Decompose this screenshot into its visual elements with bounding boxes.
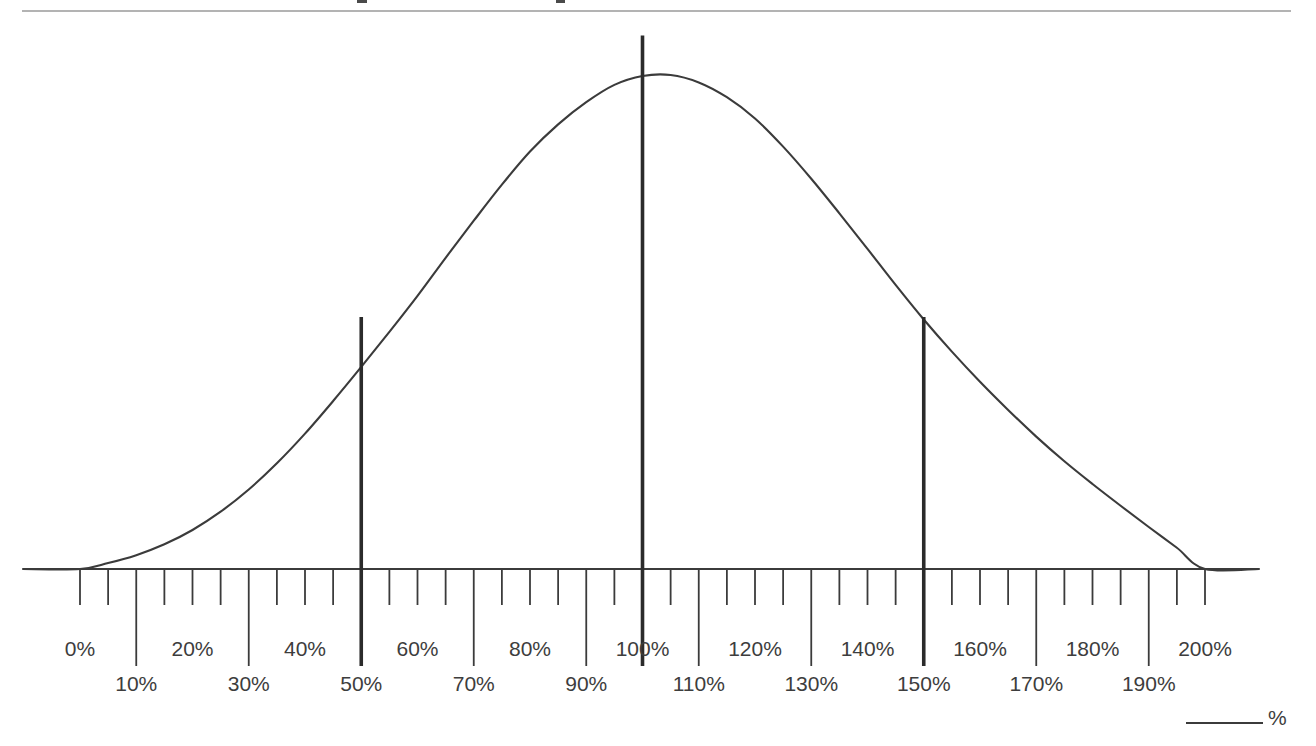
chart-canvas: 0%20%40%60%80%100%120%140%160%180%200% 1… [0,0,1316,746]
x-tick-label-150: 150% [897,672,951,696]
x-tick-label-180: 180% [1066,637,1120,661]
x-tick-label-170: 170% [1009,672,1063,696]
x-tick-label-40: 40% [284,637,326,661]
x-tick-label-100: 100% [616,637,670,661]
x-tick-label-30: 30% [228,672,270,696]
x-tick-label-120: 120% [728,637,782,661]
x-tick-label-160: 160% [953,637,1007,661]
x-tick-label-50: 50% [340,672,382,696]
x-tick-label-70: 70% [453,672,495,696]
x-tick-label-80: 80% [509,637,551,661]
x-tick-label-90: 90% [565,672,607,696]
x-tick-label-60: 60% [396,637,438,661]
x-tick-label-140: 140% [841,637,895,661]
cropped-title-fragment-left [357,0,367,3]
axis-unit-label: % [1268,706,1287,730]
x-tick-label-190: 190% [1122,672,1176,696]
distribution-chart [0,0,1316,746]
x-tick-label-130: 130% [784,672,838,696]
x-tick-label-110: 110% [673,672,725,696]
x-tick-label-200: 200% [1178,637,1232,661]
x-tick-label-10: 10% [115,672,157,696]
x-tick-label-20: 20% [171,637,213,661]
x-tick-label-0: 0% [65,637,95,661]
cropped-title-fragment-right [556,0,565,3]
